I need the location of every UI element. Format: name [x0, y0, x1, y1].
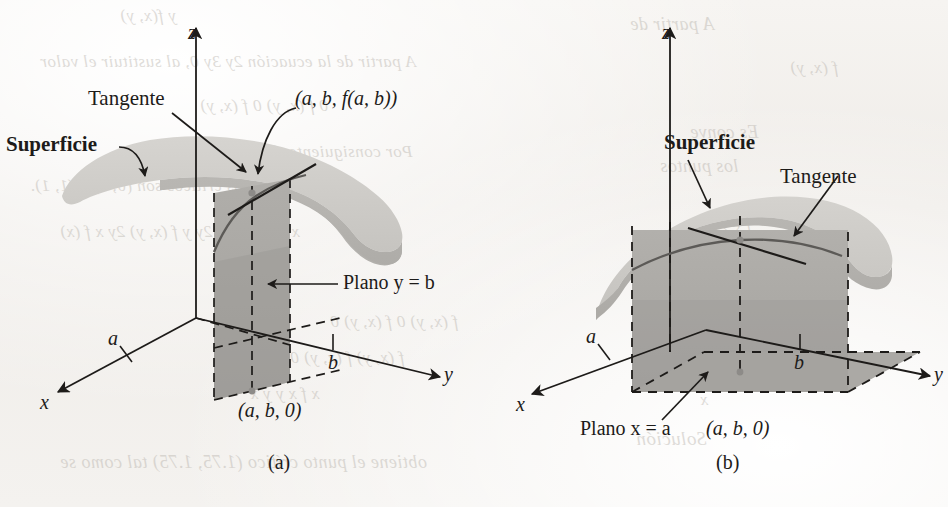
label-tangente-b: Tangente — [780, 166, 857, 187]
axis-label-z-a: z — [188, 22, 196, 42]
axis-label-x-a: x — [40, 392, 49, 412]
tick-label-y-b: b — [328, 352, 338, 372]
label-superficie-a: Superficie — [6, 134, 97, 155]
axis-label-y-b: y — [934, 364, 943, 384]
tick-x-a-b — [598, 344, 610, 360]
figure-partial-derivatives: z x y a b Superficie Tangente (a, b, f(a… — [0, 0, 948, 507]
point-a-b-fab — [248, 189, 255, 196]
figure-canvas — [0, 0, 948, 507]
caption-panel-b: (b) — [716, 452, 739, 472]
tick-label-y-b-b: b — [794, 352, 804, 372]
label-point-a-b-0-a: (a, b, 0) — [238, 400, 301, 420]
label-point-a-b-fab: (a, b, f(a, b)) — [295, 88, 397, 108]
tick-label-x-a: a — [108, 328, 118, 348]
point-b-tangency — [736, 236, 743, 243]
label-point-a-b-0-b: (a, b, 0) — [706, 418, 769, 438]
label-plano-y-equals-b: Plano y = b — [343, 272, 435, 292]
axis-label-y-a: y — [444, 364, 453, 384]
leader-superficie-b — [688, 160, 710, 208]
tick-label-x-a-b: a — [586, 326, 596, 346]
label-tangente-a: Tangente — [88, 88, 165, 109]
label-plano-x-equals-a: Plano x = a — [580, 418, 671, 438]
point-b-a-b-0 — [737, 369, 744, 376]
label-superficie-b: Superficie — [664, 132, 755, 153]
axis-label-z-b: z — [662, 22, 670, 42]
caption-panel-a: (a) — [268, 452, 290, 472]
panel-b-graphic — [532, 28, 930, 420]
point-a-b-0 — [249, 388, 256, 395]
axis-label-x-b: x — [516, 394, 525, 414]
